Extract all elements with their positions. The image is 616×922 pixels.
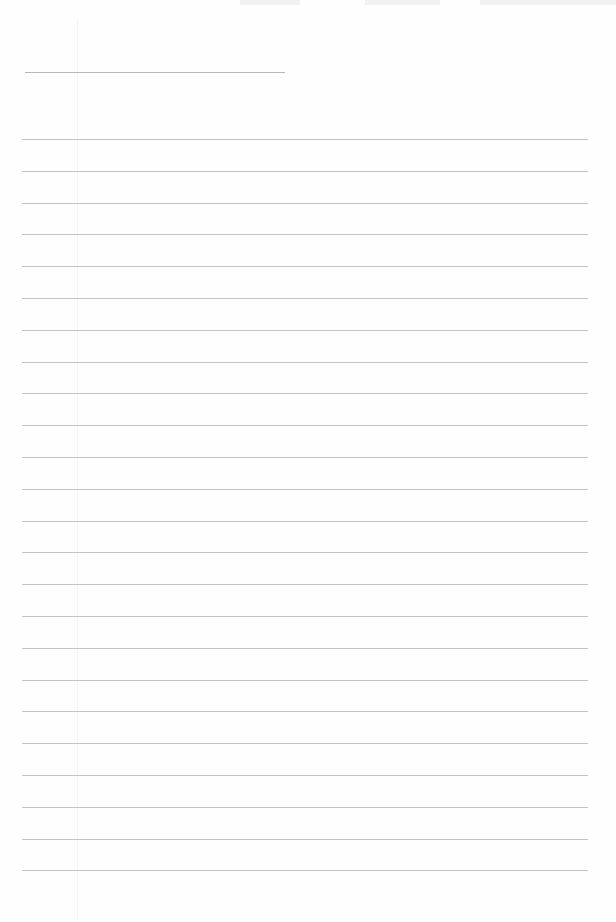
ruled-line <box>22 393 588 394</box>
ruled-line <box>22 521 588 522</box>
ruled-line <box>22 362 588 363</box>
ruled-line <box>22 266 588 267</box>
margin-line <box>77 20 78 920</box>
ruled-line <box>22 743 588 744</box>
ruled-line <box>22 584 588 585</box>
title-line <box>25 72 285 73</box>
bleed-through-mark <box>240 0 300 5</box>
ruled-line <box>22 839 588 840</box>
ruled-line <box>22 139 588 140</box>
ruled-line <box>22 807 588 808</box>
ruled-line <box>22 552 588 553</box>
ruled-line <box>22 234 588 235</box>
ruled-line <box>22 648 588 649</box>
ruled-line <box>22 775 588 776</box>
ruled-line <box>22 330 588 331</box>
ruled-line <box>22 457 588 458</box>
ruled-line <box>22 171 588 172</box>
notepaper-page <box>0 0 616 922</box>
ruled-line <box>22 711 588 712</box>
ruled-line <box>22 870 588 871</box>
ruled-line <box>22 425 588 426</box>
ruled-line <box>22 203 588 204</box>
bleed-through-mark <box>365 0 440 5</box>
ruled-line <box>22 680 588 681</box>
ruled-line <box>22 298 588 299</box>
ruled-line <box>22 489 588 490</box>
ruled-line <box>22 616 588 617</box>
bleed-through-mark <box>480 0 616 5</box>
